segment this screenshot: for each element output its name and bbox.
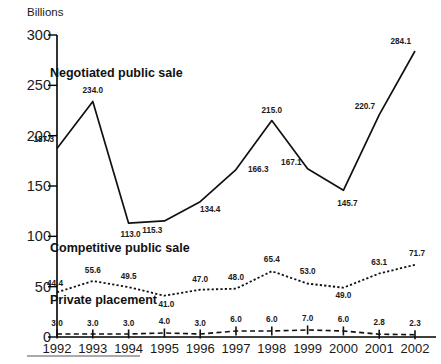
data-point-value-label: 115.3 xyxy=(142,226,162,235)
data-point-value-label: 4.0 xyxy=(159,317,171,326)
data-point-value-label: 220.7 xyxy=(355,102,376,111)
data-point-value-label: 134.4 xyxy=(200,205,221,214)
y-axis-tick-label: 150 xyxy=(27,178,51,194)
data-point-value-label: 65.4 xyxy=(264,255,280,264)
x-axis-tick-label: 1992 xyxy=(43,341,72,356)
data-point-value-label: 166.3 xyxy=(248,165,269,174)
x-axis-tick-label: 1997 xyxy=(222,341,251,356)
data-point-value-label: 3.0 xyxy=(51,319,63,328)
data-point-labels: 187.3234.0113.0115.3134.4166.3215.0167.1… xyxy=(34,37,426,328)
data-point-value-label: 113.0 xyxy=(121,230,141,239)
data-point-value-label: 49.0 xyxy=(335,291,351,300)
x-axis-tick-label: 1995 xyxy=(150,341,179,356)
data-point-value-label: 6.0 xyxy=(230,315,242,324)
y-axis-tick-labels: 050100150200250300 xyxy=(27,27,51,345)
data-point-value-label: 49.5 xyxy=(121,272,137,281)
data-point-value-label: 55.6 xyxy=(85,266,101,275)
data-point-value-label: 167.1 xyxy=(281,158,302,167)
data-point-value-label: 2.8 xyxy=(374,318,386,327)
series-label-competitive-public-sale: Competitive public sale xyxy=(50,241,190,255)
data-point-value-label: 187.3 xyxy=(34,135,55,144)
data-point-value-label: 44.4 xyxy=(47,279,63,288)
y-axis-tick-label: 250 xyxy=(27,77,51,93)
data-point-value-label: 2.3 xyxy=(409,319,421,328)
data-point-value-label: 7.0 xyxy=(302,314,314,323)
data-point-value-label: 71.7 xyxy=(409,249,425,258)
y-axis-tick-label: 100 xyxy=(27,228,51,244)
x-axis-tick-label: 1999 xyxy=(293,341,322,356)
x-axis-tick-label: 2000 xyxy=(329,341,358,356)
x-axis-tick-labels: 1992199319941995199619971998199920002001… xyxy=(43,341,430,356)
data-point-value-label: 215.0 xyxy=(262,106,283,115)
data-point-value-label: 3.0 xyxy=(87,319,99,328)
series-label-negotiated-public-sale: Negotiated public sale xyxy=(50,66,183,80)
data-point-value-label: 41.0 xyxy=(158,300,174,309)
x-axis-tick-label: 1994 xyxy=(114,341,143,356)
data-point-value-label: 6.0 xyxy=(338,315,350,324)
data-point-value-label: 47.0 xyxy=(192,275,208,284)
series-label-private-placement: Private placement xyxy=(50,293,158,307)
data-point-value-label: 3.0 xyxy=(195,319,207,328)
x-axis-tick-label: 1993 xyxy=(78,341,107,356)
data-point-value-label: 63.1 xyxy=(371,258,387,267)
data-point-value-label: 53.0 xyxy=(300,267,316,276)
line-chart: Billions 050100150200250300 199219931994… xyxy=(0,0,441,364)
data-point-value-label: 284.1 xyxy=(391,37,412,46)
x-axis-tick-label: 1996 xyxy=(186,341,215,356)
data-point-value-label: 48.0 xyxy=(228,273,244,282)
y-axis-tick-label: 300 xyxy=(27,27,51,43)
x-axis-tick-label: 2001 xyxy=(365,341,394,356)
y-axis-unit-label: Billions xyxy=(27,6,64,18)
data-point-value-label: 6.0 xyxy=(266,315,278,324)
chart-container: Billions 050100150200250300 199219931994… xyxy=(0,0,441,364)
data-point-value-label: 3.0 xyxy=(123,319,135,328)
data-point-value-label: 234.0 xyxy=(83,86,104,95)
x-axis-tick-label: 1998 xyxy=(257,341,286,356)
data-point-value-label: 145.7 xyxy=(337,199,358,208)
x-axis-tick-label: 2002 xyxy=(401,341,430,356)
